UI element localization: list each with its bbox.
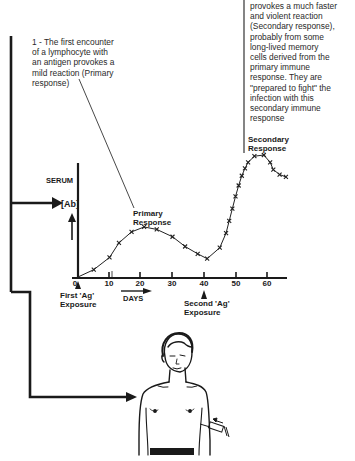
- data-point-marker: [92, 268, 96, 272]
- x-tick-label: 40: [200, 279, 209, 288]
- label-line: Response: [133, 218, 171, 227]
- secondary-response-note: provokes a much faster and violent react…: [250, 0, 355, 123]
- first-exposure-label: First 'Ag' Exposure: [60, 291, 96, 309]
- label-line: Secondary: [248, 135, 289, 144]
- note-line: (Secondary response),: [250, 21, 355, 31]
- label-line: First 'Ag': [60, 291, 96, 300]
- data-point-marker: [183, 245, 187, 249]
- x-tick-label: 10: [105, 279, 114, 288]
- data-point-marker: [278, 173, 282, 177]
- data-point-marker: [196, 252, 200, 256]
- data-point-marker: [108, 255, 112, 259]
- second-exposure-label: Second 'Ag' Exposure: [184, 299, 230, 317]
- x-tick-label: 30: [168, 279, 177, 288]
- note-line: cells derived from the: [250, 52, 355, 62]
- label-line: Exposure: [184, 308, 230, 317]
- data-point-marker: [268, 160, 272, 164]
- person-figure: [139, 333, 210, 455]
- x-tick-label: 20: [136, 279, 145, 288]
- note-line: long-lived memory: [250, 42, 355, 52]
- note-line: primary immune: [250, 62, 355, 72]
- note-line: 1 - The first encounter: [32, 37, 152, 47]
- days-label: DAYS: [123, 294, 143, 303]
- note-line: of a lymphocyte with: [32, 47, 152, 57]
- data-point-marker: [130, 230, 134, 234]
- note-line: response. They are: [250, 72, 355, 82]
- data-point-marker: [243, 166, 247, 170]
- note-line: provokes a much faster: [250, 1, 355, 11]
- note-line: response: [250, 113, 355, 123]
- note-line: an antigen provokes a: [32, 57, 152, 67]
- x-tick-label: 0: [73, 279, 77, 288]
- label-line: Primary: [133, 209, 171, 218]
- label-line: Response: [248, 144, 289, 153]
- secondary-response-label: Secondary Response: [248, 135, 289, 153]
- increase-arrow-icon: [68, 213, 76, 240]
- data-point-marker: [117, 241, 121, 245]
- data-point-marker: [171, 235, 175, 239]
- data-point-marker: [246, 160, 250, 164]
- note-line: and violent reaction: [250, 11, 355, 21]
- serum-label: SERUM: [46, 176, 73, 185]
- primary-response-label: Primary Response: [133, 209, 171, 227]
- syringe-icon: [200, 418, 229, 437]
- x-tick-label: 50: [232, 279, 241, 288]
- data-point-marker: [218, 246, 222, 250]
- note-line: infection with this: [250, 93, 355, 103]
- arrow-to-person-icon: [126, 392, 137, 402]
- data-point-marker: [271, 168, 275, 172]
- label-line: Exposure: [60, 300, 96, 309]
- x-tick-label: 60: [263, 279, 272, 288]
- ab-label: [Ab]: [61, 199, 79, 209]
- note-line: secondary immune: [250, 103, 355, 113]
- data-point-marker: [284, 175, 288, 179]
- primary-response-note: 1 - The first encounter of a lymphocyte …: [32, 37, 152, 88]
- data-point-markers: [92, 153, 288, 272]
- connector-bracket: [11, 36, 128, 397]
- note-line: mild reaction (Primary: [32, 68, 152, 78]
- data-point-marker: [205, 257, 209, 261]
- label-line: Second 'Ag': [184, 299, 230, 308]
- note-line: response): [32, 78, 152, 88]
- note-line: "prepared to fight" the: [250, 83, 355, 93]
- note-line: probably from some: [250, 32, 355, 42]
- second-exposure-marker-icon: [201, 290, 207, 299]
- primary-note-pointer: [79, 79, 134, 208]
- antibody-curve: [78, 155, 286, 277]
